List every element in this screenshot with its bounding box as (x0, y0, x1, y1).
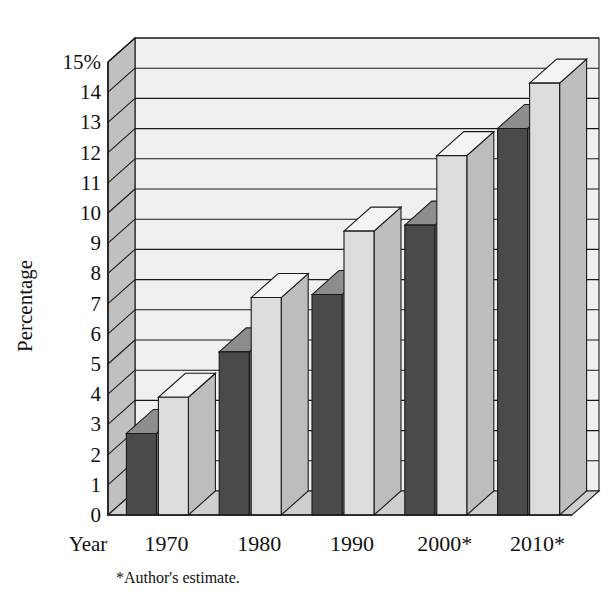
bar-front (344, 231, 374, 515)
y-tick-label: 15% (63, 50, 102, 74)
bar-front (126, 433, 156, 515)
bar-group (498, 59, 587, 515)
y-tick-label: 0 (91, 503, 102, 527)
y-tick-label: 9 (91, 231, 102, 255)
x-tick-label: 2010* (510, 531, 565, 556)
bar-front (437, 156, 467, 515)
y-tick-label: 3 (91, 412, 102, 436)
y-tick-label: 14 (80, 80, 102, 104)
bar-front (312, 295, 342, 515)
x-tick-label: 1980 (237, 531, 281, 556)
y-tick-label: 4 (91, 382, 102, 406)
y-tick-label: 1 (91, 473, 102, 497)
bar-side (188, 373, 215, 515)
bar-side (560, 59, 587, 515)
bar-front (498, 128, 528, 515)
bar-light (251, 274, 308, 515)
bar-front (251, 298, 281, 515)
bar-light (437, 132, 494, 515)
y-axis-title: Percentage (13, 260, 37, 352)
bar-front (158, 397, 188, 515)
y-tick-label: 2 (91, 443, 102, 467)
bar-front (219, 352, 249, 515)
y-tick-label: 13 (80, 110, 101, 134)
y-tick-label: 8 (91, 261, 102, 285)
y-tick-label: 10 (80, 201, 101, 225)
y-tick-label: 7 (91, 292, 102, 316)
x-tick-label: 1970 (144, 531, 188, 556)
bar-chart-3d: 15%14131211109876543210Percentage1970198… (0, 0, 614, 594)
bar-front (405, 225, 435, 515)
y-tick-label: 6 (91, 322, 102, 346)
bar-light (158, 373, 215, 515)
bar-light (344, 207, 401, 515)
y-tick-label: 12 (80, 141, 101, 165)
bar-side (467, 132, 494, 515)
y-tick-label: 11 (81, 171, 101, 195)
x-tick-label: 2000* (417, 531, 472, 556)
footnote: *Author's estimate. (116, 569, 240, 586)
bar-side (374, 207, 401, 515)
bar-side (281, 274, 308, 515)
chart-root: 15%14131211109876543210Percentage1970198… (0, 0, 614, 594)
bar-light (530, 59, 587, 515)
x-axis-title: Year (69, 532, 108, 556)
y-tick-label: 5 (91, 352, 102, 376)
bar-front (530, 83, 560, 515)
x-tick-label: 1990 (330, 531, 374, 556)
